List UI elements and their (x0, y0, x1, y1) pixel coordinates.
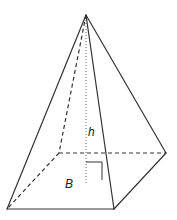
height-label: h (88, 125, 95, 139)
pyramid-diagram: h B (0, 0, 177, 220)
hidden-edge-base-left (7, 153, 59, 209)
edge-apex-back-right (86, 15, 166, 153)
edge-base-right (114, 153, 166, 209)
edge-apex-front-left (7, 15, 86, 209)
edge-apex-front-right (86, 15, 114, 209)
hidden-edge-apex-back-left (59, 15, 86, 153)
base-label: B (65, 177, 73, 191)
right-angle-marker (86, 162, 102, 180)
